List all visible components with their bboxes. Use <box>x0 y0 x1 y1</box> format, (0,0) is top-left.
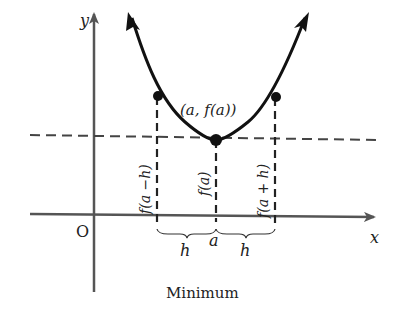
label-f-a-plus-h: f(a + h) <box>255 164 271 219</box>
label-a: a <box>209 231 219 250</box>
minimum-point <box>210 134 222 146</box>
x-axis <box>30 214 374 217</box>
label-h-left: h <box>180 241 190 260</box>
curve-arrow-left-icon <box>126 12 140 31</box>
left-point <box>153 91 163 101</box>
origin-label: O <box>76 222 89 241</box>
right-brace <box>216 229 275 238</box>
minimum-diagram: (a, f(a)) f(a −h) f(a) f(a + h) h a h y … <box>0 0 410 311</box>
x-axis-label: x <box>370 228 379 247</box>
label-h-right: h <box>240 241 250 260</box>
left-brace <box>157 229 216 238</box>
minimum-point-label: (a, f(a)) <box>180 101 237 119</box>
y-axis-label: y <box>79 11 90 30</box>
right-point <box>271 92 281 102</box>
figure-caption: Minimum <box>166 284 239 302</box>
label-f-a: f(a) <box>196 172 212 197</box>
diagram-canvas: (a, f(a)) f(a −h) f(a) f(a + h) h a h y … <box>0 0 410 311</box>
parabola-curve <box>132 18 305 140</box>
label-f-a-minus-h: f(a −h) <box>137 164 153 215</box>
